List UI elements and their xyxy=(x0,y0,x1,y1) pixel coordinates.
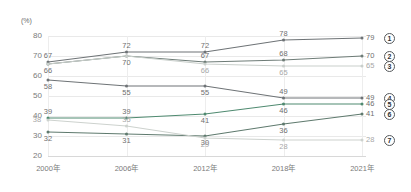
legend-marker-3[interactable]: 3 xyxy=(384,61,395,72)
series-end-value: 65 xyxy=(366,62,374,70)
series-point xyxy=(361,113,364,116)
data-point-label: 58 xyxy=(44,83,52,91)
x-axis-tick-label: 2006年 xyxy=(115,165,139,173)
data-point-label: 78 xyxy=(279,30,287,38)
x-axis-tick-label: 2012年 xyxy=(193,165,217,173)
series-end-value: 70 xyxy=(366,52,374,60)
data-point-label: 55 xyxy=(201,89,209,97)
x-axis-tick-label: 2021年 xyxy=(350,165,374,173)
data-point-label: 66 xyxy=(44,67,52,75)
data-point-label: 29 xyxy=(201,141,209,149)
data-point-label: 66 xyxy=(201,67,209,75)
legend-marker-6[interactable]: 6 xyxy=(384,109,395,120)
legend-marker-1[interactable]: 1 xyxy=(384,33,395,44)
data-point-label: 72 xyxy=(201,42,209,50)
legend-marker-5[interactable]: 5 xyxy=(384,99,395,110)
data-point-label: 39 xyxy=(44,108,52,116)
data-point-label: 41 xyxy=(201,117,209,125)
data-point-label: 49 xyxy=(279,88,287,96)
data-point-label: 31 xyxy=(122,137,130,145)
series-end-value: 41 xyxy=(366,110,374,118)
series-point xyxy=(125,125,128,128)
x-axis-tick-label: 2000年 xyxy=(36,165,60,173)
data-point-label: 38 xyxy=(33,116,41,124)
data-point-label: 70 xyxy=(122,59,130,67)
series-point xyxy=(361,37,364,40)
series-point xyxy=(125,51,128,54)
data-point-label: 28 xyxy=(279,143,287,151)
series-point xyxy=(282,97,285,100)
series-point xyxy=(282,39,285,42)
data-point-label: 35 xyxy=(122,116,130,124)
legend-marker-7[interactable]: 7 xyxy=(384,135,395,146)
series-point xyxy=(282,59,285,62)
data-point-label: 46 xyxy=(279,107,287,115)
data-point-label: 32 xyxy=(44,135,52,143)
legend-marker-2[interactable]: 2 xyxy=(384,51,395,62)
data-point-label: 67 xyxy=(201,52,209,60)
series-point xyxy=(361,97,364,100)
x-axis-tick-label: 2018年 xyxy=(272,165,296,173)
series-point xyxy=(361,65,364,68)
series-end-value: 28 xyxy=(366,136,374,144)
series-end-value: 46 xyxy=(366,100,374,108)
data-point-label: 36 xyxy=(279,127,287,135)
series-end-value: 79 xyxy=(366,34,374,42)
data-point-label: 67 xyxy=(44,52,52,60)
series-point xyxy=(361,55,364,58)
data-point-label: 65 xyxy=(279,69,287,77)
data-point-label: 55 xyxy=(122,89,130,97)
data-point-label: 72 xyxy=(122,42,130,50)
series-point xyxy=(361,139,364,142)
series-point xyxy=(47,119,50,122)
line-chart: (%) 80706050403020 677272786670676866655… xyxy=(0,0,411,192)
series-point xyxy=(361,103,364,106)
data-point-label: 68 xyxy=(279,50,287,58)
